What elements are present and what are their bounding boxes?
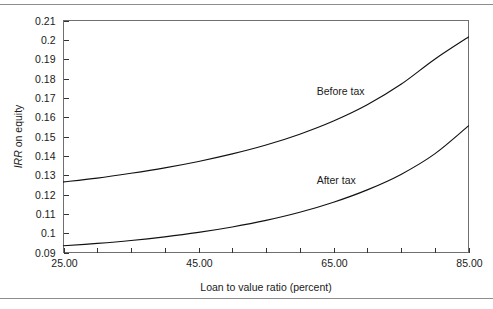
series-label-before-tax: Before tax bbox=[317, 85, 366, 97]
y-tick-label: 0.11 bbox=[36, 208, 56, 220]
series-annotations: Before taxAfter tax bbox=[317, 85, 366, 186]
series-label-after-tax: After tax bbox=[317, 174, 357, 186]
y-tick-label: 0.17 bbox=[35, 92, 56, 104]
x-tick-label: 45.00 bbox=[186, 257, 212, 269]
y-tick-label: 0.14 bbox=[35, 150, 56, 162]
y-tick-label: 0.13 bbox=[35, 169, 56, 181]
data-series-curves bbox=[64, 37, 469, 246]
y-tick-label: 0.18 bbox=[35, 73, 56, 85]
line-chart: 0.090.10.110.120.130.140.150.160.170.180… bbox=[0, 0, 493, 309]
x-axis-ticks bbox=[65, 248, 470, 253]
x-tick-label: 65.00 bbox=[321, 257, 347, 269]
y-tick-label: 0.16 bbox=[35, 111, 56, 123]
plot-border bbox=[64, 21, 469, 253]
y-tick-label: 0.21 bbox=[35, 15, 56, 27]
y-axis-tick-labels: 0.090.10.110.120.130.140.150.160.170.180… bbox=[35, 15, 56, 259]
x-axis-tick-labels: 25.0045.0065.0085.00 bbox=[51, 257, 482, 269]
y-tick-label: 0.15 bbox=[35, 131, 56, 143]
x-tick-label: 85.00 bbox=[456, 257, 482, 269]
plot-frame bbox=[64, 21, 469, 253]
y-tick-label: 0.12 bbox=[35, 189, 56, 201]
figure-container: 0.090.10.110.120.130.140.150.160.170.180… bbox=[0, 0, 493, 309]
y-axis-ticks bbox=[64, 22, 69, 254]
y-axis-title: IRR on equity bbox=[12, 104, 24, 168]
y-tick-label: 0.2 bbox=[41, 34, 56, 46]
series-curve-before-tax bbox=[64, 37, 469, 182]
y-tick-label: 0.1 bbox=[41, 227, 56, 239]
series-curve-after-tax bbox=[64, 126, 469, 246]
x-axis-title: Loan to value ratio (percent) bbox=[200, 281, 331, 293]
y-tick-label: 0.19 bbox=[35, 53, 56, 65]
x-tick-label: 25.00 bbox=[51, 257, 77, 269]
